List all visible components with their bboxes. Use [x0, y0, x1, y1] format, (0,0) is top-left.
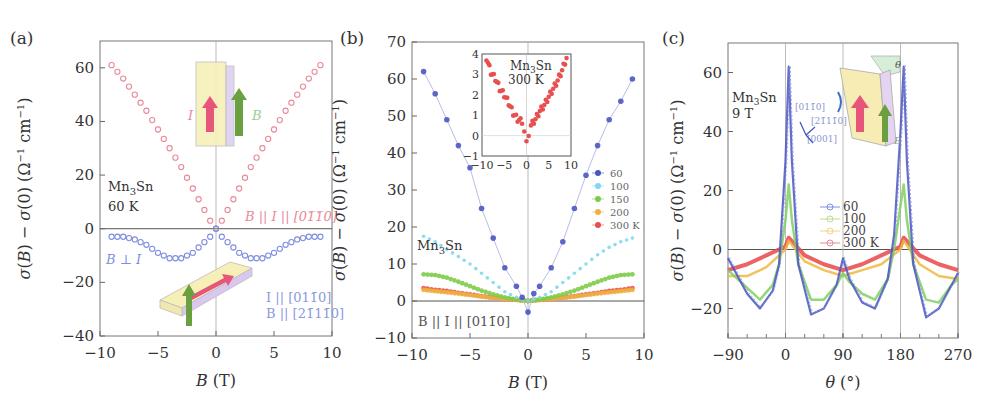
data-point	[496, 81, 501, 86]
data-point	[295, 237, 300, 242]
y-tick-label: −20	[690, 300, 722, 318]
crystal-axes-icon: [011̄0][21̄11̄0][0001]	[795, 92, 847, 144]
x-tick-label: 5	[269, 344, 279, 362]
data-point	[271, 127, 276, 132]
y-tick-label: 20	[703, 182, 722, 200]
legend-entry: 300 K	[843, 236, 880, 250]
data-point	[179, 164, 184, 169]
data-point	[560, 68, 565, 73]
data-point	[196, 245, 201, 250]
data-point	[167, 146, 172, 151]
data-point	[421, 69, 427, 75]
data-point	[515, 296, 519, 300]
data-point	[487, 63, 492, 68]
data-point	[432, 91, 438, 97]
data-point	[497, 285, 501, 289]
geometry-inset-top: IB	[187, 62, 262, 146]
figure: (a)−10−50510−40−200204060B (T)σ(B) − σ(0…	[0, 0, 1002, 408]
data-point	[208, 218, 213, 223]
y-tick-label: 40	[703, 123, 722, 141]
data-point	[283, 108, 288, 113]
data-point	[584, 262, 588, 266]
data-point	[208, 234, 213, 239]
data-point	[300, 84, 305, 89]
data-point	[607, 246, 611, 250]
data-point	[173, 155, 178, 160]
x-tick-label: 270	[944, 346, 973, 364]
data-point	[509, 105, 514, 110]
panel-label-c: (c)	[662, 28, 685, 48]
data-point	[524, 139, 529, 144]
x-tick-label: −10	[84, 344, 116, 362]
x-tick-label: −5	[147, 344, 169, 362]
y-tick-label: 50	[387, 107, 406, 125]
data-point	[248, 256, 253, 261]
data-point	[231, 197, 236, 202]
data-point	[109, 63, 114, 68]
svg-text:300 K: 300 K	[508, 73, 545, 87]
material-label: Mn3Sn	[108, 179, 154, 197]
data-point	[573, 271, 577, 275]
data-point	[167, 256, 172, 261]
data-point	[619, 240, 623, 244]
field-label: 9 T	[732, 106, 753, 121]
data-point	[522, 129, 527, 134]
data-point	[509, 293, 513, 297]
x-axis-label: θ (°)	[825, 373, 860, 392]
data-point	[237, 186, 242, 191]
y-tick-label: 20	[75, 166, 94, 184]
geometry-inset: θB	[840, 56, 901, 146]
data-point	[115, 234, 120, 239]
data-point	[190, 186, 195, 191]
x-tick-label: 0	[781, 346, 791, 364]
svg-text:−5: −5	[496, 159, 512, 172]
data-point	[457, 255, 461, 259]
data-point	[502, 265, 508, 271]
data-point	[155, 250, 160, 255]
data-point	[219, 234, 224, 239]
data-point	[503, 290, 507, 294]
data-point	[132, 92, 137, 97]
data-point	[202, 240, 207, 245]
data-point	[283, 242, 288, 247]
svg-text:[011̄0]: [011̄0]	[795, 102, 825, 112]
perpendicular-label: B ⊥ I	[105, 252, 142, 267]
data-point	[563, 62, 568, 67]
data-point	[479, 206, 485, 212]
x-tick-label: −10	[396, 346, 428, 364]
data-point	[505, 95, 510, 100]
data-point	[514, 112, 519, 117]
data-point	[289, 100, 294, 105]
x-tick-label: 5	[581, 346, 591, 364]
data-point	[271, 250, 276, 255]
data-point	[312, 69, 317, 74]
data-point	[590, 258, 594, 262]
data-point	[144, 242, 149, 247]
svg-text:−10: −10	[470, 159, 493, 172]
data-point	[150, 246, 155, 251]
y-axis-label: σ(B) − σ(0) (Ω−1 cm−1)	[330, 99, 349, 281]
data-point	[630, 288, 635, 293]
y-tick-label: −40	[62, 327, 94, 345]
data-point	[491, 281, 495, 285]
panel-c: (c)−90090180270−200204060θ (°)σ(B) − σ(0…	[662, 28, 972, 392]
x-tick-label: 10	[634, 346, 653, 364]
data-point	[544, 293, 548, 297]
data-point	[161, 253, 166, 258]
y-tick-label: 30	[387, 181, 406, 199]
data-point	[254, 256, 259, 261]
data-point	[225, 240, 230, 245]
data-point	[532, 121, 537, 126]
svg-text:B: B	[893, 135, 901, 146]
data-point	[526, 134, 531, 139]
data-point	[480, 271, 484, 275]
panel-label-a: (a)	[10, 28, 33, 48]
data-point	[231, 245, 236, 250]
svg-text:5: 5	[545, 159, 552, 172]
data-point	[520, 121, 525, 126]
data-point	[173, 256, 178, 261]
x-axis-label: B (T)	[507, 373, 548, 392]
data-point	[549, 92, 554, 97]
data-point	[179, 256, 184, 261]
data-point	[254, 155, 259, 160]
